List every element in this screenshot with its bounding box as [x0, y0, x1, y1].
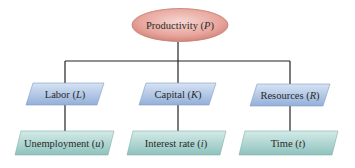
node-unemployment: Unemployment (u): [15, 131, 114, 155]
node-labor: Labor (L): [26, 83, 104, 105]
svg-text:Unemployment (u): Unemployment (u): [24, 138, 105, 150]
node-interest-rate: Interest rate (i): [127, 131, 226, 155]
resources-text: Resources: [260, 90, 303, 101]
svg-text:Time (t): Time (t): [271, 138, 306, 150]
unemployment-text: Unemployment: [24, 138, 89, 149]
node-time: Time (t): [239, 131, 338, 155]
svg-text:Capital (K): Capital (K): [155, 89, 202, 101]
node-resources: Resources (R): [250, 84, 330, 106]
capital-text: Capital: [155, 89, 185, 100]
root-text: Productivity: [146, 20, 199, 31]
interest-rate-text: Interest rate: [145, 138, 195, 149]
root-node-productivity: Productivity (P): [132, 9, 228, 42]
svg-text:Interest rate (i): Interest rate (i): [145, 138, 208, 150]
labor-text: Labor: [45, 89, 71, 100]
node-capital: Capital (K): [139, 83, 216, 105]
svg-text:Resources (R): Resources (R): [260, 90, 320, 102]
time-text: Time: [271, 138, 293, 149]
svg-text:Productivity (P): Productivity (P): [146, 20, 214, 32]
svg-text:Labor (L): Labor (L): [45, 89, 86, 101]
hierarchy-diagram: Productivity (P) Labor (L) Capital (K) R…: [0, 0, 355, 168]
